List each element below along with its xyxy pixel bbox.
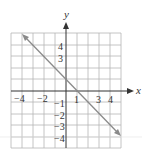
x-tick-label: −4 bbox=[14, 93, 25, 104]
y-tick-label: 4 bbox=[58, 41, 63, 52]
x-axis-label: x bbox=[135, 84, 141, 96]
x-tick-label: −2 bbox=[37, 93, 48, 104]
x-tick-label: 1 bbox=[74, 94, 79, 105]
y-tick-label: −3 bbox=[54, 121, 65, 132]
x-tick-label: 3 bbox=[96, 94, 101, 105]
line-series bbox=[22, 34, 121, 136]
x-axis-arrow-icon bbox=[127, 88, 134, 94]
y-tick-label: 3 bbox=[58, 53, 63, 64]
y-tick-label: −2 bbox=[54, 110, 65, 121]
y-tick-label: −4 bbox=[54, 133, 65, 144]
y-axis-arrow-icon bbox=[63, 22, 69, 29]
x-tick-label: 4 bbox=[108, 94, 113, 105]
y-tick-label: −1 bbox=[54, 98, 65, 109]
coordinate-graph: x y −4 −2 1 3 4 4 3 −1 −2 −3 −4 bbox=[0, 0, 142, 158]
x-axis bbox=[11, 88, 134, 94]
y-axis-label: y bbox=[63, 8, 69, 20]
